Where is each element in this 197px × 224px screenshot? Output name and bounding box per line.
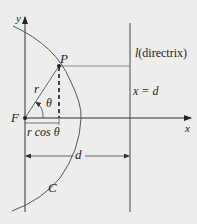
distance-label: d: [75, 148, 82, 161]
angle-arc: [36, 102, 43, 118]
diagram-canvas: y x P F r θ r cos θ d C l(directrix) x =…: [0, 0, 197, 224]
radius-label: r: [34, 82, 39, 95]
directrix-word: (directrix): [138, 46, 187, 60]
directrix-equation: x = d: [133, 85, 158, 97]
directrix-label: l(directrix): [135, 47, 187, 59]
focus-label: F: [11, 111, 19, 124]
angle-label: θ: [46, 97, 52, 109]
projection-label: r cos θ: [27, 126, 60, 138]
diagram-graphics: [0, 0, 197, 224]
point-p-label: P: [60, 52, 68, 65]
y-axis-label: y: [16, 13, 21, 24]
focus-dot: [23, 116, 27, 120]
curve-label: C: [48, 181, 57, 194]
x-axis-label: x: [185, 123, 190, 134]
